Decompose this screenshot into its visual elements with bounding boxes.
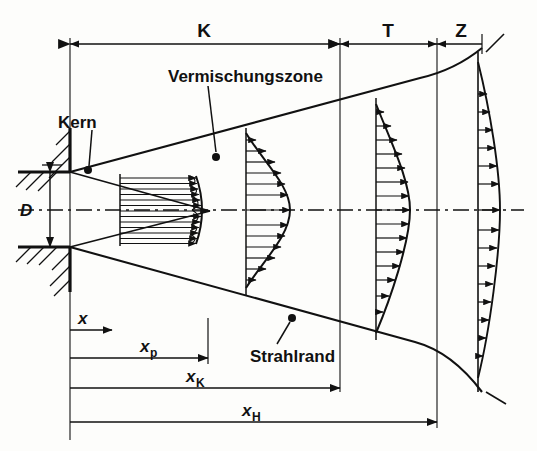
profile-1-arrows (246, 140, 290, 280)
dimension-xK-sub: K (196, 376, 205, 390)
velocity-profile-1 (246, 128, 290, 295)
dimension-x-label: x (77, 309, 89, 328)
velocity-profile-3 (478, 34, 506, 404)
dimension-xH-sub: H (252, 410, 261, 424)
zone-K-left-arrow (70, 41, 79, 48)
profile-3-arrows (478, 94, 500, 356)
zone-label-T: T (382, 20, 394, 41)
zone-K-right-arrow (331, 41, 340, 48)
vermischungszone-leader (208, 86, 216, 152)
jet-boundary-lower (70, 247, 482, 392)
zone-Z-left-arrow (437, 41, 446, 48)
annotation-label-strahlrand: Strahlrand (250, 347, 335, 366)
strahlrand-dot (288, 314, 296, 322)
profile-2-curve (376, 104, 410, 333)
zone-T-left-arrow (340, 41, 349, 48)
wall-hatching-upper (16, 131, 70, 191)
zone-dimension-bar (70, 34, 482, 54)
diagram-canvas: D (0, 0, 537, 451)
annotation-label-vermischungszone: Vermischungszone (168, 67, 323, 86)
profile-3-curve (478, 62, 500, 378)
dimension-xp-sub: p (150, 346, 157, 360)
vermischungszone-dot (212, 153, 220, 161)
kern-dot (84, 166, 92, 174)
dimension-xp-label: x p (139, 337, 157, 360)
dimension-xH-label: x H (241, 401, 261, 424)
annotation-leaders (84, 86, 296, 344)
wall-hatching-lower (16, 247, 70, 296)
zone-label-K: K (197, 20, 211, 41)
strahlrand-leader (277, 322, 290, 344)
dimension-xK-label: x K (185, 367, 205, 390)
profile-3-top-tick (486, 34, 504, 52)
annotation-label-kern: Kern (58, 113, 97, 132)
profile-2-arrows (376, 112, 410, 312)
velocity-profile-2 (376, 98, 410, 340)
zone-label-Z: Z (455, 20, 467, 41)
kern-leader (89, 130, 92, 166)
jet-diagram: D (0, 0, 537, 451)
profile-3-bottom-tick (486, 392, 506, 404)
zone-T-right-arrow (428, 41, 437, 48)
